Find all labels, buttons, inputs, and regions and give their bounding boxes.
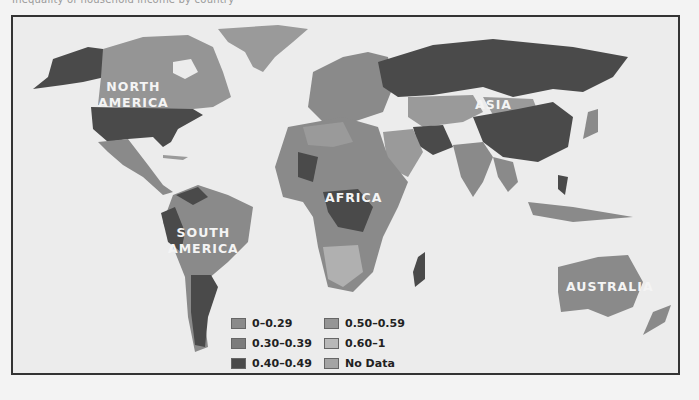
legend-item: 0–0.29 <box>231 317 292 330</box>
india-region <box>453 142 493 197</box>
se-asia-region <box>493 157 518 192</box>
legend-swatch <box>231 358 246 369</box>
map-frame: NORTH AMERICA SOUTH AMERICA AFRICA ASIA … <box>11 15 680 375</box>
label-australia: AUSTRALIA <box>566 279 654 295</box>
label-asia: ASIA <box>475 97 512 113</box>
legend-swatch <box>324 358 339 369</box>
label-south-america: SOUTH AMERICA <box>168 225 239 257</box>
madagascar-region <box>413 252 425 287</box>
map-caption: Inequality of household income by countr… <box>12 0 234 5</box>
legend-swatch <box>231 318 246 329</box>
new-zealand-region <box>643 305 671 335</box>
legend-item: 0.40–0.49 <box>231 357 312 370</box>
legend-item: 0.30–0.39 <box>231 337 312 350</box>
usa-region <box>91 107 203 147</box>
japan-region <box>583 109 598 139</box>
legend-swatch <box>324 338 339 349</box>
mexico-region <box>98 139 173 195</box>
indonesia-region <box>528 202 633 222</box>
alaska-region <box>33 47 105 89</box>
label-north-america: NORTH AMERICA <box>98 79 169 111</box>
legend-item: 0.50–0.59 <box>324 317 405 330</box>
label-africa: AFRICA <box>325 190 382 206</box>
legend-swatch <box>324 318 339 329</box>
legend-item: No Data <box>324 357 395 370</box>
greenland-region <box>218 25 308 72</box>
legend-item: 0.60–1 <box>324 337 385 350</box>
central-asia-region <box>408 95 483 127</box>
russia-region <box>378 39 628 97</box>
argentina-region <box>191 275 218 347</box>
legend-swatch <box>231 338 246 349</box>
